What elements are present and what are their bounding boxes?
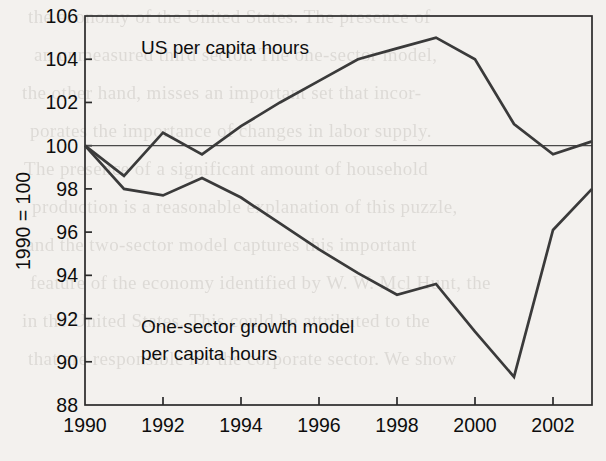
x-tick-label: 1996 [297,414,340,436]
x-tick-marks [163,397,553,405]
annotation-model-line1: One-sector growth model [141,316,354,337]
x-tick-label: 1998 [375,414,418,436]
x-tick-label: 2000 [453,414,497,436]
y-tick-label: 102 [45,91,78,113]
series-line-us-per-capita-hours [85,38,592,176]
line-chart: 1990 = 100 889092949698100102104106 1990… [0,0,606,461]
annotation-model-line2: per capita hours [141,343,277,364]
y-tick-label: 92 [56,308,78,330]
y-axis-title: 1990 = 100 [12,172,34,270]
x-tick-label: 1990 [63,414,107,436]
y-tick-label: 104 [45,48,78,70]
y-tick-label: 106 [45,5,78,27]
y-tick-label: 98 [56,178,78,200]
y-tick-labels: 889092949698100102104106 [45,5,78,416]
x-tick-label: 2002 [531,414,574,436]
y-tick-label: 100 [45,135,78,157]
annotation-us-per-capita-hours: US per capita hours [141,37,309,58]
y-tick-marks [85,59,92,362]
x-tick-labels: 1990199219941996199820002002 [63,414,574,436]
chart-figure: 1990 = 100 889092949698100102104106 1990… [0,0,606,461]
y-tick-label: 88 [56,394,78,416]
x-tick-label: 1992 [141,414,184,436]
y-tick-label: 96 [56,221,78,243]
y-tick-label: 94 [56,264,78,286]
y-tick-label: 90 [56,351,78,373]
x-tick-label: 1994 [219,414,263,436]
